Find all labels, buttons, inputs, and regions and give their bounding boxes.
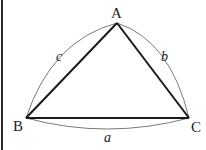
diagram-frame: A B C c b a	[0, 0, 206, 150]
vertex-label-A: A	[111, 5, 122, 21]
vertex-label-C: C	[191, 119, 201, 135]
side-label-b: b	[161, 49, 168, 64]
arc-side-a	[26, 118, 189, 129]
chord-AB	[26, 23, 117, 118]
triangle-diagram: A B C c b a	[0, 0, 206, 150]
side-label-a: a	[104, 130, 111, 145]
chord-AC	[117, 23, 189, 118]
side-label-c: c	[56, 49, 63, 64]
vertex-label-B: B	[13, 118, 23, 134]
